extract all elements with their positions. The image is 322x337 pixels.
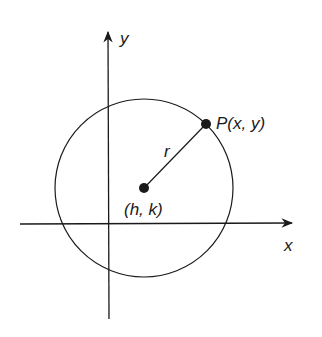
x-axis-label: x: [283, 236, 293, 255]
circle-diagram: y x r P(x, y) (h, k): [0, 0, 322, 337]
y-axis-label: y: [119, 29, 130, 48]
radius-segment: [144, 124, 206, 188]
point-p: [201, 119, 211, 129]
point-p-label: P(x, y): [216, 114, 265, 133]
center-point: [139, 183, 149, 193]
x-axis: [20, 223, 292, 224]
y-axis: [108, 32, 109, 319]
center-label: (h, k): [124, 200, 163, 219]
radius-label: r: [164, 142, 171, 161]
